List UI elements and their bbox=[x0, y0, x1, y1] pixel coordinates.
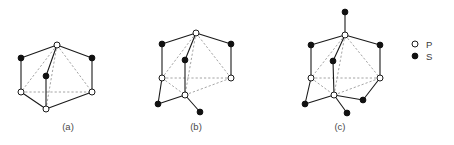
bond-solid-c-p-bottom-s-lower-right bbox=[334, 95, 363, 100]
atom-s-b-s-center bbox=[182, 57, 188, 63]
panel-label-b: (b) bbox=[190, 121, 202, 132]
atom-p-c-p-mid-left bbox=[308, 75, 314, 81]
atom-s-c-s-lower-left bbox=[302, 101, 308, 107]
figure-root: (a)(b)(c) PS bbox=[0, 0, 454, 145]
atom-p-c-p-mid-right bbox=[377, 75, 383, 81]
atom-p-c-p-apex-top bbox=[342, 32, 348, 38]
atom-s-a-s-center bbox=[43, 73, 49, 79]
atom-s-c-s-bottom-cap bbox=[344, 110, 350, 116]
atom-s-a-s-upper-left bbox=[18, 55, 24, 61]
bond-solid-a-p-bottom-p-mid-right bbox=[46, 92, 92, 109]
atom-s-c-s-lower-right bbox=[360, 97, 366, 103]
bond-solid-c-p-apex-top-s-upper-right bbox=[345, 35, 380, 45]
bond-solid-b-p-apex-top-s-center bbox=[185, 33, 196, 60]
legend-marker-s-icon bbox=[412, 53, 418, 59]
atom-p-c-p-bottom bbox=[331, 92, 337, 98]
atom-s-b-s-lower-right bbox=[197, 109, 203, 115]
bond-solid-c-s-lower-left-p-bottom bbox=[305, 95, 334, 104]
bond-dashed-c-p-apex-top-p-bottom bbox=[334, 35, 345, 95]
atom-s-b-s-lower-left bbox=[155, 101, 161, 107]
panel-label-c: (c) bbox=[334, 121, 345, 132]
bond-dashed-b-p-apex-top-p-mid-right bbox=[196, 33, 231, 78]
bond-solid-a-p-apex-top-s-center bbox=[46, 45, 57, 76]
atom-p-a-p-bottom bbox=[43, 106, 49, 112]
bond-solid-c-s-center-p-bottom bbox=[333, 61, 334, 95]
bond-dashed-c-p-mid-left-p-bottom bbox=[311, 78, 334, 95]
bond-solid-b-p-mid-left-s-lower-left bbox=[158, 78, 162, 104]
atom-p-a-p-mid-left bbox=[18, 89, 24, 95]
atom-s-b-s-upper-right bbox=[228, 41, 234, 47]
atom-s-c-s-center bbox=[330, 58, 336, 64]
bond-dashed-c-p-apex-top-p-mid-left bbox=[311, 35, 345, 78]
legend-marker-p-icon bbox=[412, 41, 418, 47]
bond-solid-c-s-upper-left-p-apex-top bbox=[311, 35, 345, 45]
bond-dashed-b-p-bottom-p-mid-right bbox=[185, 78, 231, 95]
panel-labels-layer: (a)(b)(c) bbox=[62, 121, 345, 132]
bond-solid-c-p-mid-left-s-lower-left bbox=[305, 78, 311, 104]
atom-s-c-s-upper-right bbox=[377, 42, 383, 48]
structure-figure-canvas: (a)(b)(c) PS bbox=[0, 0, 454, 145]
atom-s-c-s-upper-left bbox=[308, 42, 314, 48]
atoms-layer bbox=[18, 9, 383, 116]
bond-solid-b-p-apex-top-s-upper-right bbox=[196, 33, 231, 44]
bond-dashed-b-p-mid-left-p-bottom bbox=[162, 78, 185, 95]
solid-edges-layer bbox=[21, 12, 380, 113]
bond-dashed-b-p-apex-top-p-mid-left bbox=[162, 33, 196, 78]
atom-p-a-p-apex-top bbox=[54, 42, 60, 48]
bond-solid-b-s-upper-left-p-apex-top bbox=[162, 33, 196, 44]
atom-s-b-s-upper-left bbox=[159, 41, 165, 47]
bond-solid-c-p-apex-top-s-center bbox=[333, 35, 345, 61]
atom-p-b-p-mid-right bbox=[228, 75, 234, 81]
atom-s-a-s-upper-right bbox=[89, 55, 95, 61]
atom-s-c-s-top-cap bbox=[342, 9, 348, 15]
atom-p-a-p-mid-right bbox=[89, 89, 95, 95]
atom-p-b-p-bottom bbox=[182, 92, 188, 98]
atom-p-b-p-mid-left bbox=[159, 75, 165, 81]
bond-dashed-b-p-apex-top-p-bottom bbox=[185, 33, 196, 95]
bond-dashed-c-p-apex-top-p-mid-right bbox=[345, 35, 380, 78]
atom-p-b-p-apex-top bbox=[193, 30, 199, 36]
bond-solid-a-p-apex-top-s-upper-right bbox=[57, 45, 92, 58]
legend-label-s: S bbox=[426, 51, 432, 62]
bond-solid-a-p-mid-left-p-bottom bbox=[21, 92, 46, 109]
bond-solid-b-s-lower-left-p-bottom bbox=[158, 95, 185, 104]
legend-layer: PS bbox=[412, 39, 432, 62]
panel-label-a: (a) bbox=[62, 121, 74, 132]
legend-label-p: P bbox=[426, 39, 432, 50]
